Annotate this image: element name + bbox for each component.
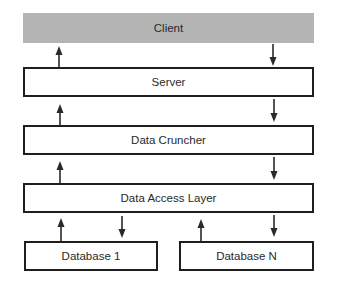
- arrow-down-icon: [271, 157, 278, 180]
- arrow-down-icon: [270, 44, 277, 66]
- database-n-label: Database N: [216, 250, 277, 262]
- database-1-box: Database 1: [24, 241, 158, 271]
- client-layer-box: Client: [23, 13, 314, 43]
- arrow-down-icon: [119, 216, 126, 238]
- arrow-up-icon: [57, 161, 64, 183]
- arrow-up-icon: [56, 46, 63, 67]
- data-cruncher-label: Data Cruncher: [131, 134, 206, 146]
- arrow-up-icon: [58, 218, 65, 241]
- arrow-down-icon: [271, 215, 278, 237]
- arrow-up-icon: [198, 219, 205, 241]
- arrow-up-icon: [57, 104, 64, 125]
- data-cruncher-layer-box: Data Cruncher: [23, 125, 314, 155]
- data-access-layer-label: Data Access Layer: [121, 192, 217, 204]
- database-n-box: Database N: [179, 241, 314, 271]
- server-label: Server: [152, 76, 186, 88]
- architecture-diagram: Client Server Data Cruncher Data Access …: [0, 0, 338, 298]
- arrow-down-icon: [271, 99, 278, 122]
- data-access-layer-box: Data Access Layer: [23, 183, 314, 213]
- server-layer-box: Server: [23, 67, 314, 97]
- database-1-label: Database 1: [62, 250, 121, 262]
- client-label: Client: [154, 22, 183, 34]
